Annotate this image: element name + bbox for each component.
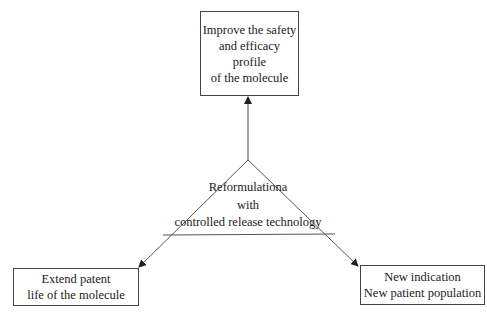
top-box-line-2: and efficacy profile [201,38,298,70]
right-box: New indication New patient population [360,265,485,305]
triangle-right-edge [248,160,358,266]
triangle-left-edge [139,160,248,267]
center-label-2: with [148,198,348,213]
left-box-line-2: life of the molecule [27,287,125,303]
center-label-3: controlled release technology [148,215,348,230]
right-box-line-1: New indication [384,269,461,285]
top-box: Improve the safety and efficacy profile … [200,11,299,96]
left-box-line-1: Extend patent [41,271,110,287]
center-label-1: Reformulationa [148,180,348,195]
triangle-base [163,234,335,235]
top-box-line-1: Improve the safety [203,22,297,38]
top-box-line-3: of the molecule [211,70,289,86]
left-box: Extend patent life of the molecule [13,268,139,306]
right-box-line-2: New patient population [364,285,481,301]
